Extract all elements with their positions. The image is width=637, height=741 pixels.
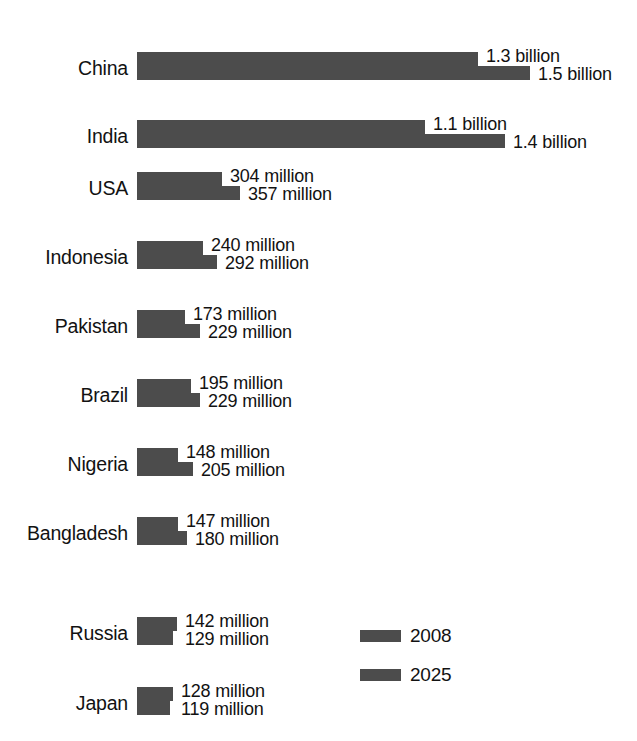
value-label-india-2008: 1.1 billion: [433, 114, 507, 134]
bar-china-2025: [137, 66, 530, 80]
chart-row-bangladesh: Bangladesh 147 million 180 million: [0, 511, 637, 571]
bar-brazil-2025: [137, 393, 200, 407]
chart-row-usa: USA 304 million 357 million: [0, 166, 637, 226]
legend-swatch-icon-2025: [360, 669, 401, 681]
value-label-indonesia-2025: 292 million: [225, 253, 309, 273]
bar-usa-2008: [137, 172, 222, 186]
chart-row-india: India 1.1 billion 1.4 billion: [0, 114, 637, 174]
chart-row-brazil: Brazil 195 million 229 million: [0, 373, 637, 433]
chart-row-russia: Russia 142 million 129 million: [0, 611, 637, 671]
value-label-brazil-2008: 195 million: [199, 373, 283, 393]
chart-row-japan: Japan 128 million 119 million: [0, 681, 637, 741]
value-label-japan-2025: 119 million: [181, 699, 264, 719]
value-label-nigeria-2008: 148 million: [186, 442, 270, 462]
bar-russia-2025: [137, 631, 173, 645]
value-label-india-2025: 1.4 billion: [513, 132, 587, 152]
bar-russia-2008: [137, 617, 177, 631]
category-label-japan: Japan: [0, 691, 128, 715]
bar-pakistan-2008: [137, 310, 185, 324]
value-label-bangladesh-2008: 147 million: [186, 511, 270, 531]
chart-row-indonesia: Indonesia 240 million 292 million: [0, 235, 637, 295]
value-label-nigeria-2025: 205 million: [201, 460, 285, 480]
chart-row-nigeria: Nigeria 148 million 205 million: [0, 442, 637, 502]
bar-indonesia-2008: [137, 241, 203, 255]
bar-nigeria-2025: [137, 462, 193, 476]
bar-bangladesh-2008: [137, 517, 178, 531]
category-label-india: India: [0, 124, 128, 148]
bar-indonesia-2025: [137, 255, 217, 269]
category-label-china: China: [0, 56, 128, 80]
value-label-brazil-2025: 229 million: [208, 391, 292, 411]
category-label-russia: Russia: [0, 621, 128, 645]
legend-swatch-icon-2008: [360, 630, 401, 642]
value-label-usa-2008: 304 million: [230, 166, 314, 186]
bar-india-2008: [137, 120, 425, 134]
chart-row-china: China 1.3 billion 1.5 billion: [0, 46, 637, 106]
population-bar-chart: China 1.3 billion 1.5 billion India 1.1 …: [0, 0, 637, 741]
bar-brazil-2008: [137, 379, 191, 393]
legend-label-2025: 2025: [410, 663, 451, 687]
bar-china-2008: [137, 52, 478, 66]
category-label-bangladesh: Bangladesh: [0, 521, 128, 545]
value-label-russia-2025: 129 million: [185, 629, 269, 649]
legend-label-2008: 2008: [410, 624, 451, 648]
value-label-russia-2008: 142 million: [185, 611, 269, 631]
category-label-brazil: Brazil: [0, 383, 128, 407]
category-label-usa: USA: [0, 176, 128, 200]
value-label-china-2025: 1.5 billion: [538, 64, 612, 84]
bar-pakistan-2025: [137, 324, 200, 338]
bar-india-2025: [137, 134, 505, 148]
bar-japan-2025: [137, 701, 170, 715]
category-label-nigeria: Nigeria: [0, 452, 128, 476]
value-label-usa-2025: 357 million: [248, 184, 332, 204]
value-label-pakistan-2008: 173 million: [193, 304, 277, 324]
value-label-pakistan-2025: 229 million: [208, 322, 292, 342]
value-label-bangladesh-2025: 180 million: [195, 529, 279, 549]
bar-nigeria-2008: [137, 448, 178, 462]
category-label-pakistan: Pakistan: [0, 314, 128, 338]
category-label-indonesia: Indonesia: [0, 245, 128, 269]
bar-japan-2008: [137, 687, 173, 701]
chart-legend: 2008 2025: [360, 624, 540, 694]
value-label-indonesia-2008: 240 million: [211, 235, 295, 255]
bar-usa-2025: [137, 186, 240, 200]
chart-row-pakistan: Pakistan 173 million 229 million: [0, 304, 637, 364]
value-label-japan-2008: 128 million: [181, 681, 265, 701]
value-label-china-2008: 1.3 billion: [486, 46, 560, 66]
bar-bangladesh-2025: [137, 531, 187, 545]
